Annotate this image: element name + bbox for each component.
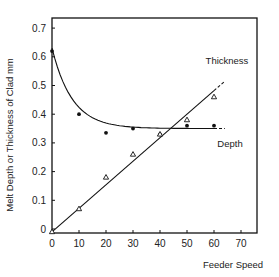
thickness-fit-curve bbox=[52, 48, 214, 128]
thickness-point bbox=[212, 124, 216, 128]
data-points bbox=[49, 49, 216, 234]
x-tick-label: 70 bbox=[235, 238, 247, 249]
thickness-point bbox=[50, 49, 54, 53]
x-axis-label: Feeder Speed bbox=[203, 259, 263, 270]
series-label-depth: Depth bbox=[217, 138, 242, 149]
y-axis-label: Melt Depth or Thickness of Clad mm bbox=[4, 58, 15, 212]
plot-border bbox=[52, 18, 257, 233]
y-tick-label: 0.1 bbox=[32, 195, 46, 206]
y-tick-label: 0.4 bbox=[32, 109, 46, 120]
depth-fit-extension bbox=[214, 81, 225, 90]
series-label-thickness: Thickness bbox=[206, 55, 249, 66]
y-tick-label: 0.6 bbox=[32, 51, 46, 62]
x-tick-label: 10 bbox=[73, 238, 85, 249]
fit-curves bbox=[52, 48, 225, 232]
depth-point bbox=[130, 152, 135, 157]
x-tick-label: 60 bbox=[208, 238, 220, 249]
x-tick-label: 30 bbox=[127, 238, 139, 249]
plot-frame bbox=[52, 18, 257, 233]
y-tick-label: 0.7 bbox=[32, 23, 46, 34]
y-tick-label: 0.3 bbox=[32, 137, 46, 148]
depth-point bbox=[211, 94, 216, 99]
chart: 00.10.20.30.40.50.60.7 010203040506070 M… bbox=[0, 0, 279, 277]
thickness-point bbox=[131, 127, 135, 131]
x-tick-label: 20 bbox=[100, 238, 112, 249]
x-tick-label: 0 bbox=[49, 238, 55, 249]
thickness-point bbox=[185, 124, 189, 128]
x-tick-label: 50 bbox=[181, 238, 193, 249]
y-tick-label: 0 bbox=[40, 224, 46, 235]
thickness-point bbox=[104, 131, 108, 135]
y-tick-label: 0.5 bbox=[32, 80, 46, 91]
y-tick-label: 0.2 bbox=[32, 166, 46, 177]
depth-point bbox=[184, 117, 189, 122]
depth-point bbox=[103, 175, 108, 180]
x-tick-label: 40 bbox=[154, 238, 166, 249]
thickness-point bbox=[77, 112, 81, 116]
